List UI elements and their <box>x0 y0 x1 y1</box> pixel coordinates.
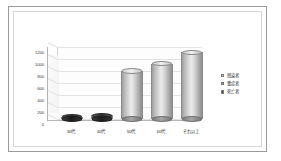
legend-item-label: 感染者 <box>227 73 239 78</box>
chart-legend: 感染者重症者死亡者 <box>221 73 267 98</box>
legend-item-label: 重症者 <box>227 81 239 86</box>
legend-item[interactable]: 重症者 <box>221 81 267 86</box>
x-tick-label: それ以上 <box>183 129 199 134</box>
legend-item[interactable]: 死亡者 <box>221 89 267 94</box>
legend-swatch-icon <box>221 82 224 85</box>
chart-frame: 020040060080010001200 30代40代50代60代それ以上 感… <box>8 6 267 152</box>
legend-item[interactable]: 感染者 <box>221 73 267 78</box>
x-tick-label: 40代 <box>97 129 106 134</box>
legend-swatch-icon <box>221 74 224 77</box>
legend-swatch-icon <box>221 90 224 93</box>
x-tick-label: 30代 <box>67 129 76 134</box>
x-tick-label: 60代 <box>157 129 166 134</box>
x-axis-labels: 30代40代50代60代それ以上 <box>31 41 209 127</box>
plot-area: 020040060080010001200 30代40代50代60代それ以上 <box>31 41 209 127</box>
legend-item-label: 死亡者 <box>227 89 239 94</box>
x-tick-label: 50代 <box>127 129 136 134</box>
